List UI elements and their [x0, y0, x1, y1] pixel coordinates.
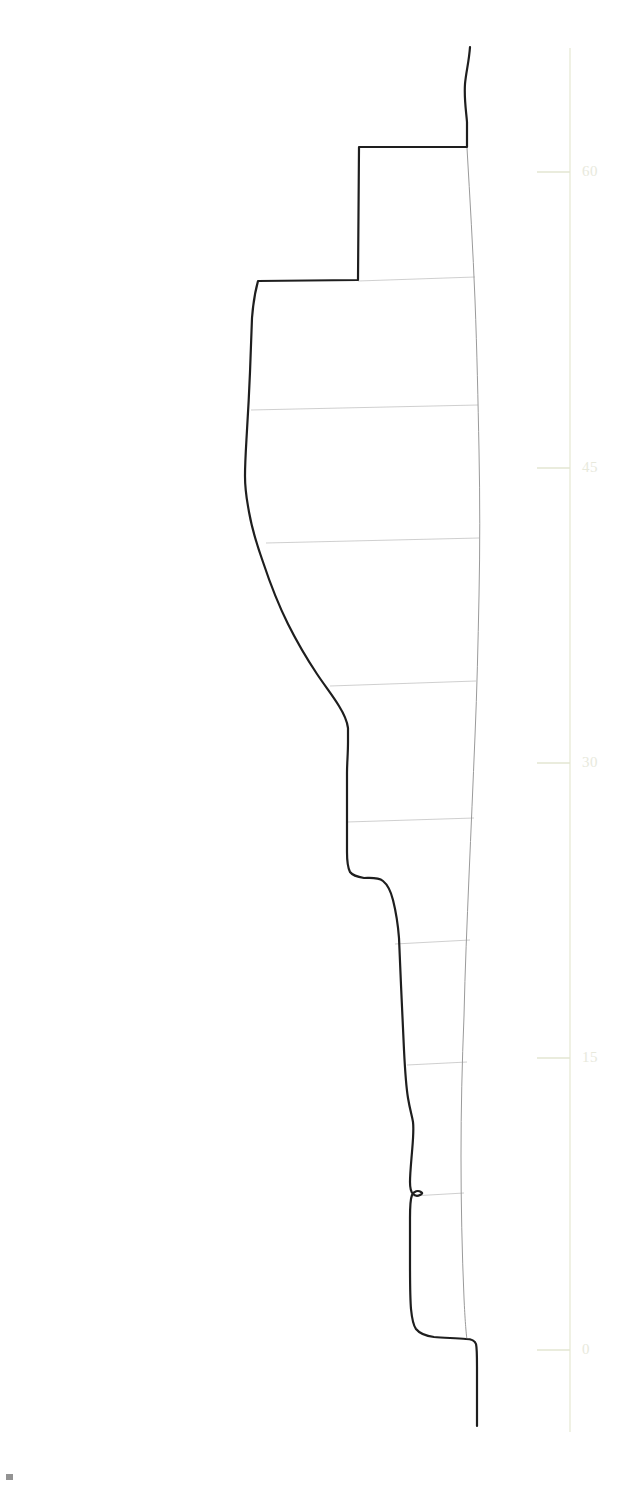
figure-root: 60 45 30 15 0 — [0, 0, 630, 1490]
axis-tick-label-45: 45 — [582, 459, 598, 476]
profile-outline — [245, 47, 477, 1426]
axis-tick-label-30: 30 — [582, 754, 598, 771]
bottom-left-corner-mark — [6, 1474, 13, 1480]
profile-right-boundary — [461, 148, 480, 1340]
layer-divider-line — [347, 818, 474, 822]
layer-divider-line — [251, 405, 478, 410]
axis-tick-label-0: 0 — [582, 1341, 590, 1358]
layer-divider-line — [395, 940, 470, 944]
axis-tick-label-15: 15 — [582, 1049, 598, 1066]
layer-dividers — [251, 277, 479, 1196]
depth-axis — [537, 48, 570, 1432]
profile-diagram — [0, 0, 630, 1490]
layer-divider-line — [330, 681, 476, 686]
layer-divider-line — [266, 538, 479, 543]
axis-tick-label-60: 60 — [582, 163, 598, 180]
layer-divider-line — [407, 1062, 467, 1065]
layer-divider-line — [358, 277, 475, 281]
